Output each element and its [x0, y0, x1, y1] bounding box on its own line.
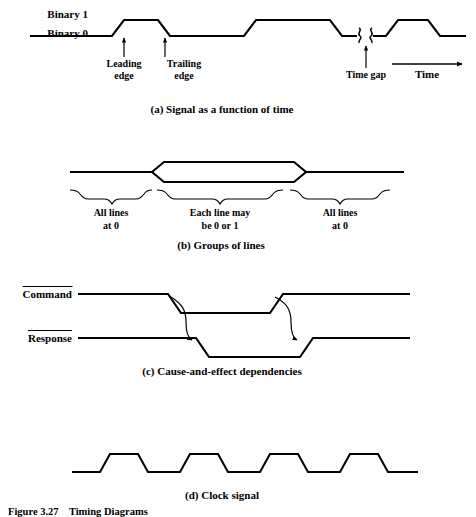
panel-b-caption: (b) Groups of lines	[177, 239, 265, 251]
causal-arrow-second	[275, 297, 297, 340]
binary-zero-label: Binary 0	[47, 27, 88, 39]
bus-valid-data-hexagon	[152, 162, 306, 182]
trailing-edge-label-line2: edge	[174, 70, 193, 81]
response-label: Response	[28, 330, 72, 344]
figure-caption: Figure 3.27 Timing Diagrams	[8, 506, 148, 517]
response-label-text: Response	[28, 330, 72, 344]
panel-a-waveform	[30, 20, 466, 68]
leading-edge-label-line1: Leading	[106, 58, 141, 69]
signal-trace-right	[373, 20, 466, 36]
time-gap-label: Time gap	[346, 69, 386, 80]
response-signal-trace	[78, 338, 410, 357]
bus-left-label-line1: All lines	[94, 207, 129, 218]
bus-mid-label-line1: Each line may	[190, 207, 251, 218]
command-signal-trace	[78, 294, 410, 313]
time-axis-label: Time	[415, 68, 439, 80]
leading-edge-label-line2: edge	[114, 70, 133, 81]
bus-mid-label-line2: be 0 or 1	[202, 220, 239, 231]
trailing-edge-label-line1: Trailing	[167, 58, 201, 69]
panel-a-caption: (a) Signal as a function of time	[151, 103, 294, 115]
brace-each-line-mid	[157, 190, 283, 204]
panel-d-caption: (d) Clock signal	[185, 489, 259, 501]
time-gap-break-right	[370, 28, 372, 43]
panel-d-clock	[72, 454, 418, 472]
figure-caption-title: Timing Diagrams	[69, 506, 148, 517]
time-gap-break-left	[359, 28, 361, 43]
command-label-text: Command	[22, 286, 72, 300]
panel-b-bus	[70, 162, 404, 204]
command-label: Command	[22, 286, 72, 300]
figure-caption-number: Figure 3.27	[8, 506, 59, 517]
panel-c-caption: (c) Cause-and-effect dependencies	[142, 365, 301, 377]
panel-c-waveforms	[78, 294, 410, 357]
bus-right-label-line2: at 0	[332, 220, 348, 231]
binary-one-label: Binary 1	[47, 8, 88, 20]
brace-all-lines-left	[70, 190, 152, 204]
brace-all-lines-right	[290, 190, 390, 204]
clock-signal-trace	[72, 454, 418, 472]
bus-right-label-line1: All lines	[323, 207, 358, 218]
bus-left-label-line2: at 0	[103, 220, 119, 231]
